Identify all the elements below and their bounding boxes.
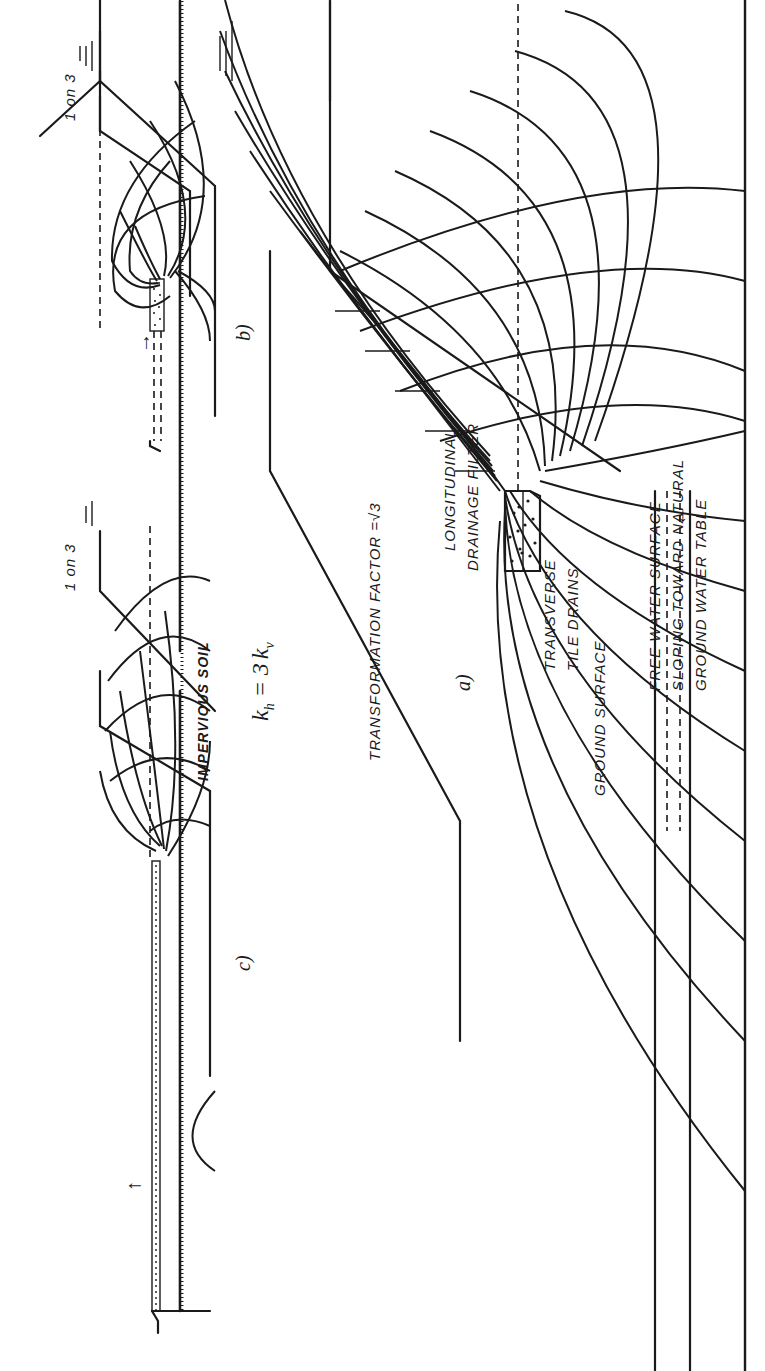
water-surface-label-line3: GROUND WATER TABLE <box>692 499 709 691</box>
slope-label-c: 1 on 3 <box>61 543 78 591</box>
ground-surface-label: GROUND SURFACE <box>591 641 608 796</box>
tile-drains-label-line1: TRANSVERSE <box>541 559 558 671</box>
panel-c: ↑ 1 on 3 c) <box>40 0 255 1333</box>
water-surface-label-line1: FREE WATER SURFACE <box>646 501 663 691</box>
flow-net-figure: ← 1 on 3 b) IMPERVIOUS SOIL kh = 3k <box>0 0 765 1371</box>
water-surface-label-line2: SLOPING TOWARD NATURAL <box>669 459 686 691</box>
transformation-factor-label: TRANSFORMATION FACTOR =√3 <box>366 502 383 761</box>
panel-tag-a: a) <box>452 674 475 691</box>
filter-label-line2: DRAINAGE FILTER <box>464 423 481 571</box>
tile-drains-label-line2: TILE DRAINS <box>564 567 581 671</box>
flow-arrow-c: ↑ <box>122 1181 144 1191</box>
panel-tag-b: b) <box>232 324 255 341</box>
panel-b: ← 1 on 3 b) <box>61 31 255 451</box>
panel-a: ↑ <box>220 0 745 1371</box>
svg-text:kh = 3kv: kh = 3kv <box>247 641 277 721</box>
filter-label-line1: LONGITUDINAL <box>441 428 458 551</box>
permeability-equation: kh = 3kv <box>247 641 277 721</box>
panel-tag-c: c) <box>232 955 255 971</box>
flow-net-grid <box>220 0 745 1191</box>
flow-arrow: ← <box>139 333 161 353</box>
